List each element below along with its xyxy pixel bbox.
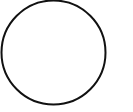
canvas — [0, 0, 133, 112]
circle-outline — [2, 1, 106, 105]
